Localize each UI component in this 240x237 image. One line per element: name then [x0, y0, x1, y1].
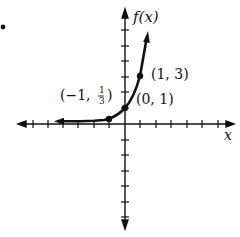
fraction-denominator: 3 — [99, 96, 105, 106]
list-bullet — [1, 25, 6, 30]
point-label-neg1-open: (−1, — [60, 87, 91, 103]
y-axis-label: f(x) — [132, 8, 159, 26]
exponential-graph: f(x) x (1, 3) (0, 1) (−1, 1 3 ) — [0, 0, 240, 237]
y-axis-up-arrow-icon — [122, 9, 128, 18]
point-label-neg1-third: (−1, 1 3 ) — [60, 85, 112, 106]
point-neg1-third — [106, 116, 112, 122]
y-axis-down-arrow-icon — [122, 220, 128, 229]
point-label-neg1-close: ) — [107, 87, 112, 103]
curve-up-arrow-icon — [143, 31, 150, 43]
point-1-3 — [137, 73, 143, 79]
x-axis-label: x — [224, 127, 232, 143]
point-label-1-3: (1, 3) — [151, 66, 189, 82]
y-axis — [121, 9, 129, 229]
fraction-numerator: 1 — [99, 85, 105, 95]
point-0-1 — [122, 105, 128, 111]
x-axis — [18, 120, 234, 128]
point-label-0-1: (0, 1) — [136, 91, 174, 107]
function-curve — [54, 31, 150, 125]
x-axis-left-arrow-icon — [18, 121, 26, 127]
